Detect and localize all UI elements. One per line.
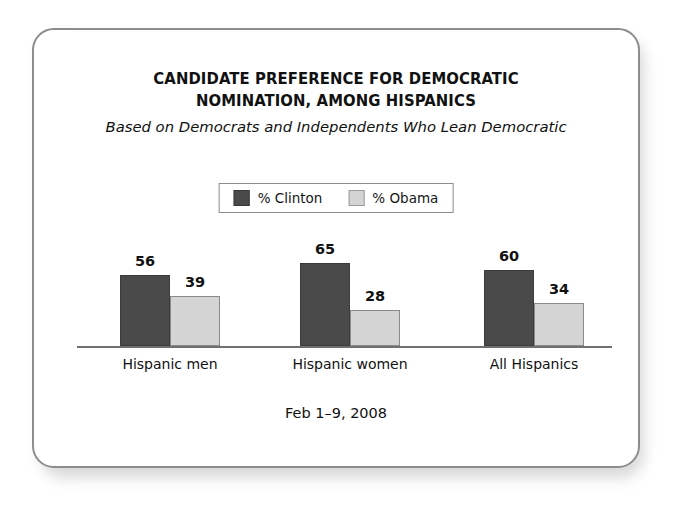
bar-value-clinton-hispanic-women: 65 [315,241,335,257]
bar-obama-all-hispanics[interactable]: 34 [534,303,584,346]
bar-group-all-hispanics: 60 34 [484,180,584,346]
bar-group-hispanic-men: 56 39 [120,180,220,346]
x-tick-label-hispanic-men: Hispanic men [122,356,217,372]
bar-value-clinton-hispanic-men: 56 [135,253,155,269]
bar-clinton-hispanic-women[interactable]: 65 [300,263,350,346]
x-tick-label-hispanic-women: Hispanic women [292,356,407,372]
bar-value-obama-hispanic-women: 28 [365,288,385,304]
bar-obama-hispanic-women[interactable]: 28 [350,310,400,346]
bar-clinton-hispanic-men[interactable]: 56 [120,275,170,346]
bar-value-obama-all-hispanics: 34 [549,281,569,297]
chart-footer-date: Feb 1–9, 2008 [34,405,638,421]
bar-clinton-all-hispanics[interactable]: 60 [484,270,534,346]
chart-card: CANDIDATE PREFERENCE FOR DEMOCRATIC NOMI… [32,28,640,468]
bar-obama-hispanic-men[interactable]: 39 [170,296,220,346]
x-axis-line [77,346,612,348]
page-background: CANDIDATE PREFERENCE FOR DEMOCRATIC NOMI… [0,0,681,512]
bar-group-hispanic-women: 65 28 [300,180,400,346]
bar-groups: 56 39 65 28 [77,180,612,346]
bar-value-clinton-all-hispanics: 60 [499,248,519,264]
bar-value-obama-hispanic-men: 39 [185,274,205,290]
plot-area: 56 39 65 28 [34,30,638,466]
x-tick-label-all-hispanics: All Hispanics [490,356,579,372]
